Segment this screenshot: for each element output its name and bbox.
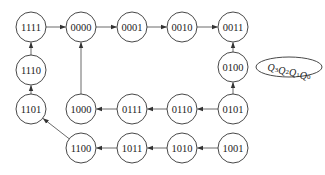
state-node-0001: 0001 (117, 12, 147, 42)
state-variable-legend: Q3Q2Q1Q0 (256, 57, 322, 81)
state-label: 0000 (71, 22, 92, 33)
state-label: 0110 (172, 104, 193, 115)
state-node-0011: 0011 (218, 12, 248, 42)
state-node-1011: 1011 (117, 133, 147, 163)
state-node-1101: 1101 (16, 94, 46, 124)
transition-edges (31, 27, 233, 148)
state-label: 0010 (172, 22, 193, 33)
state-node-0110: 0110 (167, 94, 197, 124)
state-nodes: 1111000000010010001111100100110110000111… (16, 12, 248, 163)
state-label: 0101 (223, 104, 244, 115)
state-node-1001: 1001 (218, 133, 248, 163)
state-label: 1111 (21, 22, 41, 33)
state-label: 0111 (122, 104, 142, 115)
state-node-1111: 1111 (16, 12, 46, 42)
state-node-1010: 1010 (167, 133, 197, 163)
state-node-0101: 0101 (218, 94, 248, 124)
state-label: 1010 (172, 143, 193, 154)
state-node-0100: 0100 (218, 52, 248, 82)
state-node-1000: 1000 (66, 94, 96, 124)
state-node-0111: 0111 (117, 94, 147, 124)
state-label: 1100 (71, 143, 92, 154)
state-label: 1000 (71, 104, 92, 115)
state-label: 0100 (223, 62, 244, 73)
state-label: 1011 (122, 143, 143, 154)
state-node-0000: 0000 (66, 12, 96, 42)
state-diagram: 1111000000010010001111100100110110000111… (0, 0, 325, 175)
edge-1100-to-1101 (43, 119, 69, 139)
state-node-1110: 1110 (16, 55, 46, 85)
state-node-1100: 1100 (66, 133, 96, 163)
state-label: 0001 (122, 22, 143, 33)
state-label: 0011 (223, 22, 244, 33)
state-node-0010: 0010 (167, 12, 197, 42)
state-label: 1110 (21, 65, 41, 76)
state-label: 1101 (21, 104, 42, 115)
state-label: 1001 (223, 143, 244, 154)
